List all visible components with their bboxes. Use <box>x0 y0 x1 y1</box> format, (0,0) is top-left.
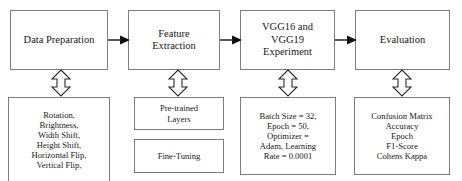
right-arrow-icon <box>220 33 242 47</box>
stage-box-data-preparation: Data Preparation <box>10 10 108 70</box>
stage-label-feature-extraction: Feature Extraction <box>129 28 219 53</box>
stage-box-feature-extraction: Feature Extraction <box>128 10 220 70</box>
detail-box-pretrained-layers: Pre-trained Layers <box>134 97 224 130</box>
detail-box-hyperparameters: Batch Size = 32, Epoch = 50, Optimizer =… <box>240 97 336 175</box>
detail-label-pretrained-layers: Pre-trained Layers <box>135 103 223 123</box>
stage-label-vgg-experiment: VGG16 and VGG19 Experiment <box>241 21 334 58</box>
detail-box-fine-tuning: Fine-Tuning <box>134 139 224 173</box>
double-headed-vertical-arrow-icon <box>50 69 72 97</box>
detail-box-augmentation: Rotation, Brightness, Width Shift, Heigh… <box>8 97 110 181</box>
stage-box-vgg-experiment: VGG16 and VGG19 Experiment <box>240 10 335 70</box>
stage-label-evaluation: Evaluation <box>356 34 449 46</box>
detail-label-fine-tuning: Fine-Tuning <box>135 151 223 161</box>
stage-box-evaluation: Evaluation <box>355 10 450 70</box>
right-arrow-icon <box>108 33 130 47</box>
double-headed-vertical-arrow-icon <box>277 69 299 97</box>
double-headed-vertical-arrow-icon <box>167 69 189 97</box>
double-headed-vertical-arrow-icon <box>391 69 413 97</box>
right-arrow-icon <box>335 33 357 47</box>
detail-label-hyperparameters: Batch Size = 32, Epoch = 50, Optimizer =… <box>241 111 335 162</box>
flowchart-diagram: Data Preparation Feature Extraction VGG1… <box>0 0 462 181</box>
detail-label-evaluation-metrics: Confusion Matrix Accuracy Epoch F1-Score… <box>355 111 449 162</box>
stage-label-data-preparation: Data Preparation <box>11 34 107 46</box>
detail-box-evaluation-metrics: Confusion Matrix Accuracy Epoch F1-Score… <box>354 97 450 175</box>
detail-label-augmentation: Rotation, Brightness, Width Shift, Heigh… <box>9 110 109 171</box>
